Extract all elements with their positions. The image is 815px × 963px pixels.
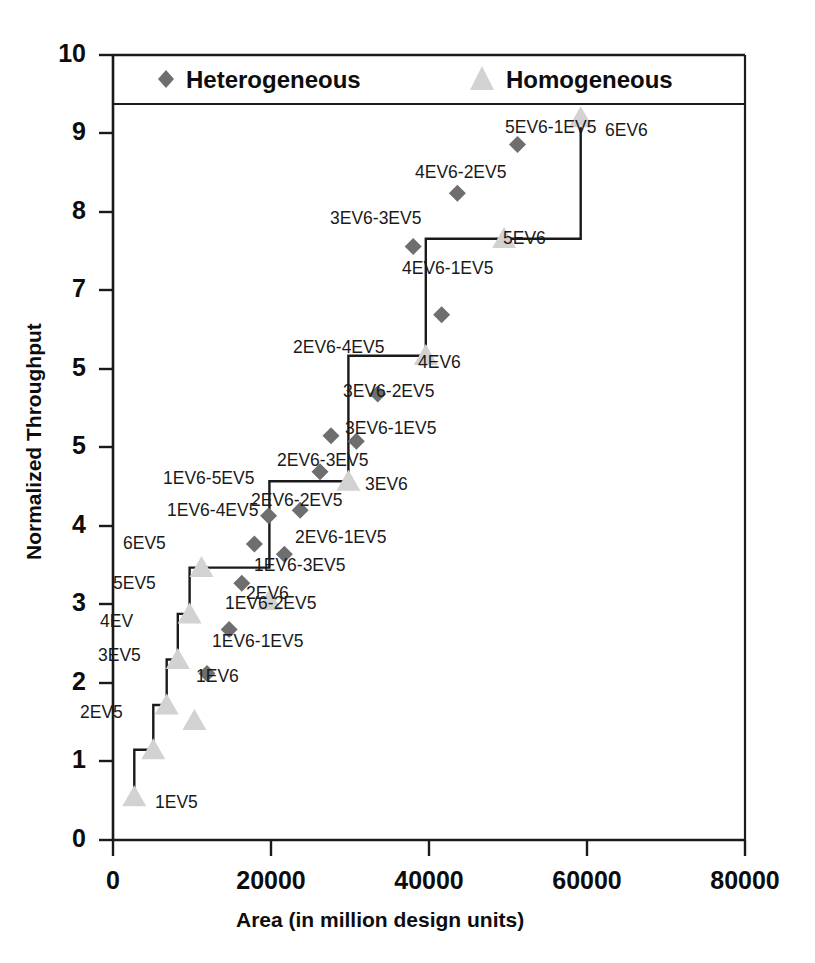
data-point-label: 3EV6-1EV5 <box>345 418 436 439</box>
chart-root: Heterogeneous Homogeneous 10 9 8 7 5 5 4… <box>0 0 815 963</box>
data-point-label: 1EV6-5EV5 <box>163 468 254 489</box>
data-point-label: 4EV6-1EV5 <box>402 258 493 279</box>
y-tick-label-5: 5 <box>40 431 86 460</box>
y-tick-label-2: 2 <box>40 667 86 696</box>
y-tick-label-10: 10 <box>40 39 86 68</box>
data-point-marker[interactable] <box>405 238 422 255</box>
data-point-marker[interactable] <box>246 536 263 553</box>
data-point-label: 3EV5 <box>98 645 141 666</box>
x-tick-label-80000: 80000 <box>680 866 810 895</box>
x-tick-label-60000: 60000 <box>522 866 652 895</box>
data-point-label: 5EV5 <box>113 573 156 594</box>
x-axis-title: Area (in million design units) <box>236 908 524 932</box>
y-tick-label-4: 4 <box>40 510 86 539</box>
data-point-marker[interactable] <box>509 136 526 153</box>
data-point-label: 2EV6-1EV5 <box>295 527 386 548</box>
data-point-label: 2EV6-4EV5 <box>293 337 384 358</box>
legend-triangle-icon <box>470 66 494 90</box>
x-tick-label-20000: 20000 <box>206 866 336 895</box>
data-point-label: 4EV6-2EV5 <box>415 162 506 183</box>
data-point-label: 1EV5 <box>155 792 198 813</box>
y-axis-title: Normalized Throughput <box>22 323 46 560</box>
data-point-label: 2EV5 <box>80 702 123 723</box>
y-tick-label-9: 9 <box>40 117 86 146</box>
data-point-label: 1EV6-3EV5 <box>254 555 345 576</box>
data-point-label: 2EV6-3EV5 <box>277 450 368 471</box>
data-point-label: 5EV6 <box>503 228 546 249</box>
data-point-marker[interactable] <box>323 427 340 444</box>
data-point-marker[interactable] <box>182 709 206 730</box>
data-point-label: 3EV6 <box>365 474 408 495</box>
data-point-label: 4EV6 <box>418 352 461 373</box>
y-tick-label-1: 1 <box>40 745 86 774</box>
data-point-label: 2EV6-2EV5 <box>251 490 342 511</box>
y-tick-label-8: 8 <box>40 196 86 225</box>
data-point-label: 3EV6-2EV5 <box>343 381 434 402</box>
y-tick-label-3: 3 <box>40 588 86 617</box>
data-point-marker[interactable] <box>449 185 466 202</box>
data-point-label: 1EV6-1EV5 <box>212 631 303 652</box>
data-point-label: 4EV <box>100 611 133 632</box>
data-point-label: 1EV6-4EV5 <box>167 500 258 521</box>
x-tick-label-0: 0 <box>83 866 143 895</box>
x-tick-label-40000: 40000 <box>364 866 494 895</box>
legend-label-heterogeneous[interactable]: Heterogeneous <box>186 66 361 94</box>
data-point-marker[interactable] <box>433 306 450 323</box>
data-point-label: 1EV6 <box>196 666 239 687</box>
legend-diamond-icon <box>158 70 174 88</box>
data-point-label: 6EV5 <box>123 533 166 554</box>
data-point-label: 6EV6 <box>605 120 648 141</box>
data-point-label: 1EV6-2EV5 <box>225 593 316 614</box>
data-point-marker[interactable] <box>122 785 146 806</box>
y-tick-label-6: 5 <box>40 353 86 382</box>
data-point-label: 5EV6-1EV5 <box>505 117 596 138</box>
y-tick-label-0: 0 <box>40 824 86 853</box>
data-point-label: 3EV6-3EV5 <box>330 208 421 229</box>
y-tick-label-7: 7 <box>40 274 86 303</box>
legend-label-homogeneous[interactable]: Homogeneous <box>506 66 673 94</box>
